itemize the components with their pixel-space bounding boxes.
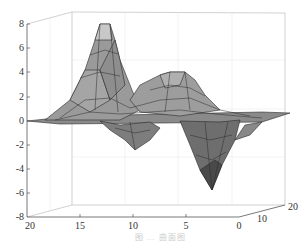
x-axis-labels: 20 15 10 5 0 — [25, 220, 242, 231]
z-tick-label: -8 — [16, 211, 24, 222]
y-tick-label: 10 — [257, 213, 267, 224]
z-axis-ticks — [27, 24, 30, 193]
x-tick-label: 10 — [128, 220, 138, 231]
z-tick-label: 2 — [19, 91, 24, 102]
y-tick-label: 20 — [288, 201, 298, 212]
surface-mesh — [27, 24, 290, 190]
x-tick-label: 20 — [25, 220, 35, 231]
z-tick-label: 6 — [19, 42, 24, 53]
z-tick-label: -6 — [16, 187, 24, 198]
figure-caption: 图 … 曲面图 — [60, 231, 260, 241]
surface-plot: 8 6 4 2 0 -2 -4 -6 -8 20 15 10 5 0 10 20 — [0, 0, 307, 246]
z-tick-label: 8 — [19, 18, 24, 29]
z-tick-label: 4 — [19, 66, 24, 77]
z-axis-labels: 8 6 4 2 0 -2 -4 -6 -8 — [16, 18, 24, 222]
x-axis-ticks — [80, 214, 186, 217]
x-tick-label: 0 — [237, 220, 242, 231]
z-tick-label: -4 — [16, 163, 24, 174]
z-tick-label: 0 — [19, 115, 24, 126]
z-tick-label: -2 — [16, 139, 24, 150]
x-tick-label: 5 — [184, 220, 189, 231]
y-axis-labels: 10 20 — [257, 201, 298, 224]
x-tick-label: 15 — [75, 220, 85, 231]
